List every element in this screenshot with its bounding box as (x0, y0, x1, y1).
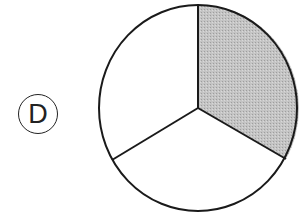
divider-lower-left (112, 108, 198, 160)
divided-circle-figure (0, 0, 302, 213)
shaded-sector (198, 5, 299, 159)
